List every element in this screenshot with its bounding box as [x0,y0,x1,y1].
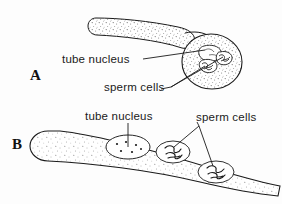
panel-a-pollen-tube [88,18,195,49]
panel-a-sperm-cells-label: sperm cells [104,82,164,94]
panel-b-pollen-tube [30,131,280,196]
panel-b-sperm-cells-leader-1 [174,126,199,147]
panel-letter-b: B [12,137,22,152]
panel-b-sperm-cells-label: sperm cells [196,112,256,124]
panel-letter-a: A [30,68,41,83]
panel-a-tube-nucleus-label: tube nucleus [62,54,130,66]
panel-b-tube-nucleus-label: tube nucleus [85,111,153,123]
panel-b-sperm-cell-1-envelope [156,141,190,163]
pollen-tube-figure: A B tube nucleus sperm cells tube nucleu… [0,0,282,204]
panel-b-drawing [30,122,280,196]
figure-line-art [0,0,282,204]
panel-b-sperm-cells-leader-2 [199,126,213,166]
